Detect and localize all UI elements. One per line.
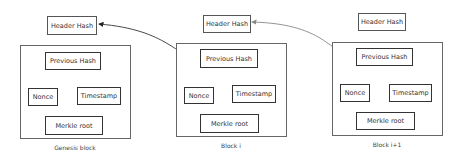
block-i-nonce: Nonce [184,87,214,104]
block-i-label: Block i [196,142,266,149]
block-i1-previous-hash: Previous Hash [356,48,413,66]
block-i1-header-hash: Header Hash [358,13,406,31]
block-i1-merkle-root: Merkle root [356,112,415,130]
block-i-timestamp: Timestamp [232,85,276,103]
block-i-merkle-root: Merkle root [200,114,259,133]
genesis-previous-hash: Previous Hash [45,52,101,70]
block-i-header-hash: Header Hash [203,15,251,33]
block-i1-nonce: Nonce [340,84,370,102]
genesis-header-hash: Header Hash [47,16,97,35]
genesis-nonce: Nonce [28,88,58,106]
block-i1-label: Block i+1 [352,141,422,148]
genesis-timestamp: Timestamp [77,87,121,105]
genesis-block-label: Genesis block [40,144,110,151]
genesis-merkle-root: Merkle root [45,116,103,135]
block-i1-timestamp: Timestamp [389,84,432,102]
block-i-previous-hash: Previous Hash [200,49,258,68]
